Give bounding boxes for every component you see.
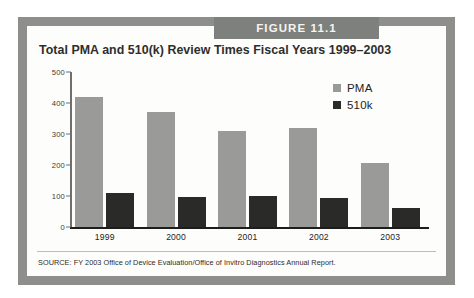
y-axis-tick-label: 500	[27, 68, 65, 77]
chart-legend: PMA510k	[333, 82, 373, 116]
plot-wrapper: 0100200300400500 19992000200120022003 PM…	[27, 64, 446, 276]
legend-label: PMA	[347, 82, 373, 94]
bar-pma-1999	[75, 97, 103, 227]
legend-item-510k: 510k	[333, 99, 373, 111]
x-axis-label-2000: 2000	[137, 232, 216, 242]
legend-swatch-icon	[333, 84, 341, 92]
y-axis-tick-mark	[66, 134, 71, 135]
y-axis-line	[70, 72, 72, 227]
x-axis-label-2003: 2003	[351, 232, 430, 242]
source-note: SOURCE: FY 2003 Office of Device Evaluat…	[38, 258, 336, 267]
y-axis-tick-label: 200	[27, 161, 65, 170]
figure-number-band: FIGURE 11.1	[214, 17, 379, 39]
figure-body: FIGURE 11.1 Total PMA and 510(k) Review …	[27, 26, 446, 276]
x-axis-label-2002: 2002	[279, 232, 358, 242]
legend-swatch-icon	[333, 101, 341, 109]
bar-510k-2001	[249, 196, 277, 227]
bar-group	[147, 72, 206, 227]
source-divider	[37, 251, 436, 252]
x-axis-label-1999: 1999	[65, 232, 144, 242]
y-axis-tick-mark	[66, 103, 71, 104]
y-axis-tick-mark	[66, 165, 71, 166]
y-axis-tick-label: 0	[27, 223, 65, 232]
y-axis-tick-label: 400	[27, 99, 65, 108]
plot-area: 0100200300400500 19992000200120022003	[71, 72, 428, 227]
y-axis-tick-mark	[66, 227, 71, 228]
bar-group	[75, 72, 134, 227]
y-axis-tick-label: 300	[27, 130, 65, 139]
bar-510k-2002	[320, 198, 348, 227]
bar-510k-2000	[178, 197, 206, 227]
x-axis-label-2001: 2001	[208, 232, 287, 242]
bar-pma-2001	[218, 131, 246, 227]
figure-number-label: FIGURE 11.1	[256, 22, 337, 34]
chart-title: Total PMA and 510(k) Review Times Fiscal…	[39, 43, 391, 57]
bar-group	[218, 72, 277, 227]
legend-label: 510k	[347, 99, 373, 111]
y-axis-tick-mark	[66, 72, 71, 73]
bar-510k-1999	[106, 193, 134, 227]
bar-pma-2000	[147, 112, 175, 227]
bar-pma-2003	[361, 163, 389, 227]
y-axis-tick-mark	[66, 196, 71, 197]
bar-pma-2002	[289, 128, 317, 227]
legend-item-pma: PMA	[333, 82, 373, 94]
y-axis-tick-label: 100	[27, 192, 65, 201]
bar-510k-2003	[392, 208, 420, 227]
figure-frame: FIGURE 11.1 Total PMA and 510(k) Review …	[18, 17, 455, 285]
